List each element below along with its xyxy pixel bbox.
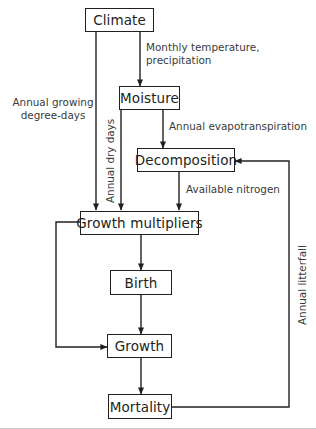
edge-label-annual-litterfall-text: Annual litterfall [296, 245, 308, 325]
edge-label-annual-dry-days: Annual dry days [104, 119, 117, 203]
edge-label-annual-evapotranspiration-text: Annual evapotranspiration [169, 120, 307, 132]
edge-label-annual-dry-days-text: Annual dry days [104, 119, 116, 203]
edge-label-annual-growing-line2: degree-days [12, 109, 94, 122]
edge-label-annual-growing-line1: Annual growing [12, 96, 94, 109]
edge-mortality-to-decomposition-feedback [172, 161, 289, 407]
node-birth[interactable]: Birth [110, 270, 172, 295]
edge-label-monthly-temperature-line2: precipitation [146, 54, 260, 67]
node-decomposition-label: Decomposition [135, 152, 237, 168]
edge-label-annual-growing-degree-days: Annual growing degree-days [12, 96, 94, 121]
node-mortality-label: Mortality [110, 399, 171, 415]
edge-label-available-nitrogen: Available nitrogen [186, 183, 280, 196]
node-moisture[interactable]: Moisture [119, 86, 180, 110]
node-growth-label: Growth [115, 338, 164, 354]
node-birth-label: Birth [125, 275, 158, 291]
node-growth-multipliers[interactable]: Growth multipliers [80, 211, 199, 235]
node-mortality[interactable]: Mortality [108, 394, 172, 419]
edge-label-annual-evapotranspiration: Annual evapotranspiration [169, 120, 307, 133]
node-growth-multipliers-label: Growth multipliers [76, 215, 202, 231]
edge-growth-multipliers-to-growth-feedback [56, 222, 107, 347]
edge-label-monthly-temperature: Monthly temperature, precipitation [146, 41, 260, 66]
node-climate-label: Climate [93, 12, 146, 28]
edge-label-available-nitrogen-text: Available nitrogen [186, 183, 280, 195]
node-climate[interactable]: Climate [85, 8, 154, 32]
node-moisture-label: Moisture [120, 90, 179, 106]
diagram-canvas: Climate Moisture Decomposition Growth mu… [0, 0, 316, 429]
node-growth[interactable]: Growth [107, 334, 172, 358]
edge-label-annual-litterfall: Annual litterfall [296, 245, 309, 325]
edge-label-monthly-temperature-line1: Monthly temperature, [146, 41, 260, 54]
node-decomposition[interactable]: Decomposition [137, 148, 235, 172]
